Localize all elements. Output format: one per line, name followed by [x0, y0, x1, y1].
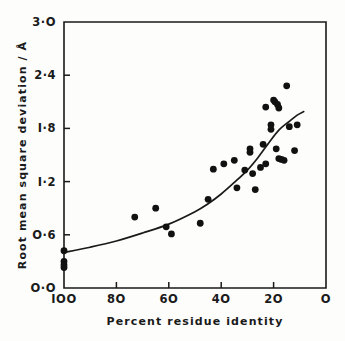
data-point — [281, 157, 288, 164]
x-tick-label: 2O — [264, 292, 283, 306]
y-tick-label: O·O — [31, 281, 56, 295]
y-tick-label: 3·O — [32, 15, 56, 29]
x-axis-ticks — [116, 282, 273, 288]
x-tick-label: 8O — [107, 292, 126, 306]
fit-curve — [64, 112, 304, 253]
data-point — [231, 157, 238, 164]
data-point — [268, 126, 275, 133]
data-points — [61, 82, 301, 271]
x-tick-label: O — [321, 292, 331, 306]
data-point — [260, 141, 267, 148]
plot-frame — [64, 22, 326, 288]
y-tick-label: O·6 — [32, 228, 56, 242]
data-point — [241, 167, 248, 174]
data-point — [234, 184, 241, 191]
data-point — [283, 82, 290, 89]
data-point — [61, 247, 68, 254]
data-point — [247, 149, 254, 156]
y-axis-title: Root mean square deviation / Å — [16, 41, 29, 269]
data-point — [61, 264, 68, 271]
data-point — [210, 166, 217, 173]
data-point — [152, 205, 159, 212]
data-point — [168, 231, 175, 238]
data-point — [273, 145, 280, 152]
data-point — [294, 121, 301, 128]
figure-container: IOO8O6O4O2OO O·OO·6I·2I·82·43·O Percent … — [0, 0, 345, 341]
data-point — [252, 186, 259, 193]
scatter-plot: IOO8O6O4O2OO O·OO·6I·2I·82·43·O Percent … — [0, 0, 345, 341]
x-axis-tick-labels: IOO8O6O4O2OO — [51, 292, 331, 306]
data-point — [275, 105, 282, 112]
y-tick-label: I·2 — [38, 175, 56, 189]
data-point — [262, 104, 269, 111]
data-point — [249, 170, 256, 177]
y-tick-label: 2·4 — [34, 68, 56, 82]
data-point — [131, 214, 138, 221]
data-point — [205, 196, 212, 203]
y-axis-ticks — [64, 75, 70, 235]
data-point — [262, 160, 269, 167]
data-point — [286, 123, 293, 130]
data-point — [163, 223, 170, 230]
y-axis-tick-labels: O·OO·6I·2I·82·43·O — [31, 15, 56, 295]
data-point — [291, 147, 298, 154]
axis-frame — [64, 22, 326, 288]
data-point — [197, 220, 204, 227]
fit-curve-group — [64, 112, 304, 253]
x-axis-title: Percent residue identity — [107, 315, 284, 328]
x-tick-label: 4O — [212, 292, 231, 306]
data-point — [220, 160, 227, 167]
x-tick-label: 6O — [159, 292, 178, 306]
y-tick-label: I·8 — [38, 121, 56, 135]
